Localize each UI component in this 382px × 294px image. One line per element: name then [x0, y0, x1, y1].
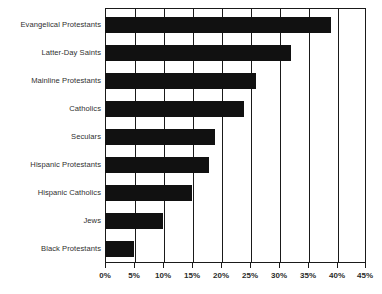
- tick-mark: [163, 263, 164, 268]
- category-label-catholics: Catholics: [0, 104, 101, 114]
- tick-mark: [279, 263, 280, 268]
- clipped-caption-strip: [0, 285, 382, 294]
- category-label-seculars: Seculars: [0, 132, 101, 142]
- tick-mark: [337, 263, 338, 268]
- tick-mark: [308, 263, 309, 268]
- bars-layer: [105, 8, 366, 263]
- bar-jews: [105, 213, 163, 229]
- tick-mark: [134, 263, 135, 268]
- bar-mainline-protestants: [105, 73, 256, 89]
- tick-mark: [192, 263, 193, 268]
- bar-hispanic-protestants: [105, 157, 209, 173]
- bar-evangelical-protestants: [105, 17, 331, 33]
- tick-mark: [365, 263, 366, 268]
- category-label-hispanic-catholics: Hispanic Catholics: [0, 188, 101, 198]
- bar-hispanic-catholics: [105, 185, 192, 201]
- tick-mark: [105, 263, 106, 268]
- category-label-latter-day-saints: Latter-Day Saints: [0, 48, 101, 58]
- x-tick-label-45: 45%: [347, 270, 382, 281]
- x-axis-tick-labels: 0% 5% 10% 15% 20% 25% 30% 35% 40% 45%: [0, 270, 382, 282]
- tick-mark: [221, 263, 222, 268]
- bar-black-protestants: [105, 241, 134, 257]
- bar-latter-day-saints: [105, 45, 291, 61]
- category-label-hispanic-protestants: Hispanic Protestants: [0, 160, 101, 170]
- category-label-mainline-protestants: Mainline Protestants: [0, 76, 101, 86]
- category-label-jews: Jews: [0, 216, 101, 226]
- category-label-black-protestants: Black Protestants: [0, 244, 101, 254]
- category-axis-labels: Evangelical Protestants Latter-Day Saint…: [0, 8, 101, 263]
- category-label-evangelical-protestants: Evangelical Protestants: [0, 20, 101, 30]
- tick-mark: [250, 263, 251, 268]
- x-axis-tick-marks: [105, 263, 366, 268]
- bar-catholics: [105, 101, 244, 117]
- bar-chart: Evangelical Protestants Latter-Day Saint…: [0, 0, 382, 294]
- bar-seculars: [105, 129, 215, 145]
